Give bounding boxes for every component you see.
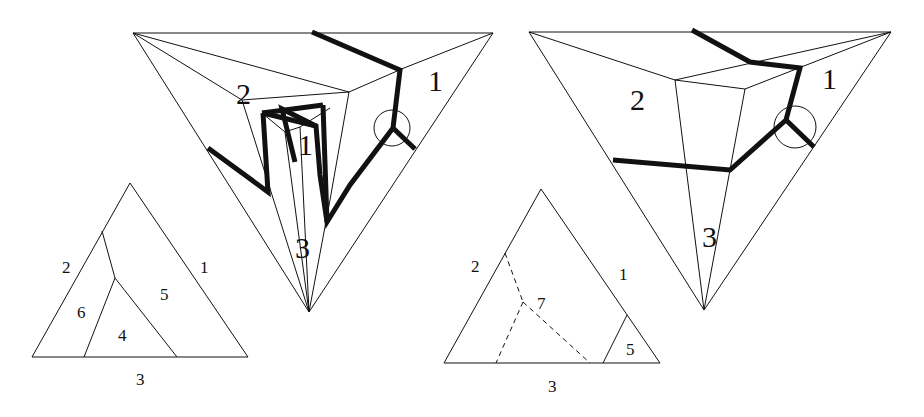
diagram-canvas: 2 1 1 3 2 1 3 2 1 5 6 4 3 — [0, 0, 924, 417]
label-edge-1: 1 — [200, 258, 209, 277]
label-edge-2: 2 — [62, 258, 71, 277]
right-big-triangle: 2 1 3 — [529, 30, 891, 310]
label-face-6: 6 — [77, 303, 86, 322]
label-face-7: 7 — [537, 294, 546, 313]
label-region-3: 3 — [295, 231, 310, 264]
left-small-triangle: 2 1 5 6 4 3 — [32, 183, 248, 389]
label-edge-3: 3 — [136, 370, 145, 389]
label-region-1: 1 — [822, 62, 837, 95]
label-edge-1: 1 — [619, 265, 628, 284]
label-edge-3: 3 — [548, 377, 557, 396]
label-region-2: 2 — [236, 77, 251, 110]
label-region-3: 3 — [702, 220, 717, 253]
label-region-1: 1 — [428, 64, 443, 97]
label-inner-1: 1 — [298, 128, 313, 161]
label-face-5: 5 — [626, 340, 635, 359]
right-small-triangle: 2 1 7 5 3 — [444, 189, 660, 396]
label-region-2: 2 — [630, 83, 645, 116]
outer-triangle — [444, 189, 660, 363]
label-face-5: 5 — [160, 285, 169, 304]
label-face-4: 4 — [118, 326, 127, 345]
left-big-triangle: 2 1 1 3 — [133, 32, 493, 312]
label-edge-2: 2 — [471, 257, 480, 276]
